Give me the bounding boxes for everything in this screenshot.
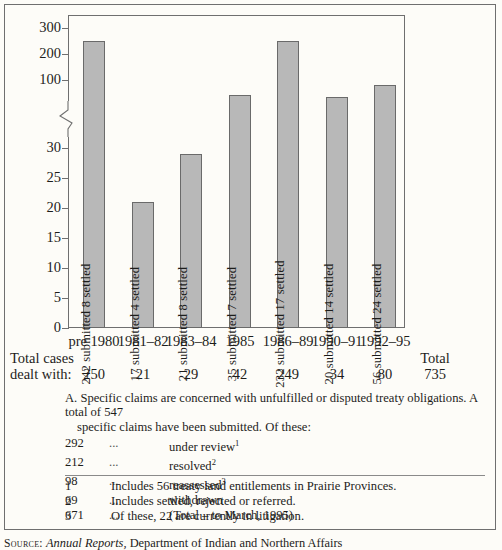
y-tick-100 [62,80,69,81]
claims-description: resolved2 [169,455,485,474]
y-tick-label-10: 10 [25,260,61,274]
footnote-divider [65,475,485,476]
y-tick-5 [62,298,69,299]
footnote-row: 2Includes settled, rejected or referred. [65,494,485,509]
bar-1992-95: 56 submitted 24 settled [374,85,396,328]
y-tick-label-25: 25 [25,170,61,184]
figure-frame: 051015202530100200300 242 submitted 8 se… [4,4,496,530]
bar-1983-84: 21 submitted 8 settled [180,154,202,328]
totals-row: Total cases dealt with: 2502129422493480… [5,350,497,384]
claims-dots: ... [109,436,169,455]
y-tick-10 [62,268,69,269]
y-tick-15 [62,238,69,239]
footnote-number: 3 [65,509,111,524]
bar-1981-82: 17 submitted 4 settled [132,202,154,328]
footnote-text: Includes 56 treaty land entitlements in … [111,479,485,494]
bar-pre-1980: 242 submitted 8 settled [83,41,105,328]
footnotes-block: 1Includes 56 treaty land entitlements in… [65,479,485,523]
claims-description: under review1 [169,436,485,455]
footnote-row: 1Includes 56 treaty land entitlements in… [65,479,485,494]
y-tick-label-30: 30 [25,140,61,154]
source-line: Source: Annual Reports, Department of In… [4,536,484,550]
claims-count: 292 [65,436,109,455]
footnote-number: 2 [65,494,111,509]
bar-1985: 35 submitted 7 settled [229,95,251,328]
claims-count: 212 [65,455,109,474]
y-tick-25 [62,178,69,179]
y-tick-label-200: 200 [25,46,61,60]
source-italic-title: Annual Reports, [46,536,127,550]
footnote-text: Includes settled, rejected or referred. [111,494,485,509]
claims-row: 292...under review1 [65,436,485,455]
source-rest: Department of Indian and Northern Affair… [127,536,343,550]
grand-total-label: Total [405,350,465,367]
y-tick-label-20: 20 [25,200,61,214]
note-paragraph-line1: A. Specific claims are concerned with un… [65,391,477,419]
footnote-marker: 1 [235,438,239,448]
y-tick-0 [62,328,69,329]
y-tick-30 [62,148,69,149]
note-paragraph-line2: specific claims have been submitted. Of … [65,420,485,434]
y-tick-label-100: 100 [25,72,61,86]
claims-dots: ... [109,455,169,474]
footnote-text: Of these, 22 are currently in litigation… [111,509,485,524]
y-tick-300 [62,28,69,29]
bar-1986-89: 232 submitted 17 settled [277,41,299,328]
x-axis-label: 1992–95 [345,333,425,350]
y-tick-label-15: 15 [25,230,61,244]
bar-chart: 051015202530100200300 242 submitted 8 se… [5,5,497,345]
y-tick-200 [62,54,69,55]
grand-total-value: 735 [405,366,465,383]
y-tick-label-300: 300 [25,20,61,34]
footnote-row: 3Of these, 22 are currently in litigatio… [65,509,485,524]
note-paragraph: A. Specific claims are concerned with un… [65,391,485,434]
source-kicker: Source: [4,537,43,550]
footnote-marker: 2 [212,457,216,467]
claims-row: 212...resolved2 [65,455,485,474]
totals-caption-line1: Total cases [10,350,100,366]
y-tick-label-0: 0 [25,320,61,334]
y-tick-label-5: 5 [25,290,61,304]
y-axis-tick-labels: 051015202530100200300 [13,5,61,345]
y-tick-20 [62,208,69,209]
footnote-number: 1 [65,479,111,494]
bar-1990-91: 20 submitted 14 settled [326,97,348,328]
